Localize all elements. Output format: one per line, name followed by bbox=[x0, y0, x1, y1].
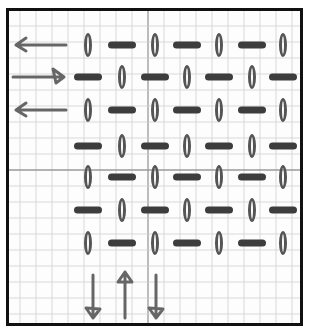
dash-mark bbox=[269, 143, 297, 150]
oval-mark bbox=[248, 198, 256, 222]
dash-mark bbox=[238, 42, 266, 49]
oval-mark bbox=[183, 65, 191, 89]
dash-mark bbox=[205, 207, 233, 214]
oval-mark bbox=[215, 231, 223, 255]
dash-mark bbox=[108, 107, 136, 114]
oval-mark bbox=[279, 98, 287, 122]
oval-mark bbox=[248, 134, 256, 158]
dash-mark bbox=[141, 143, 169, 150]
oval-mark bbox=[118, 134, 126, 158]
dash-mark bbox=[108, 174, 136, 181]
dash-mark bbox=[74, 74, 102, 81]
dash-mark bbox=[173, 174, 201, 181]
oval-mark bbox=[84, 98, 92, 122]
oval-mark bbox=[118, 198, 126, 222]
dash-mark bbox=[141, 207, 169, 214]
oval-mark bbox=[215, 165, 223, 189]
dash-mark bbox=[205, 74, 233, 81]
dash-mark bbox=[238, 107, 266, 114]
oval-mark bbox=[84, 231, 92, 255]
dash-mark bbox=[74, 207, 102, 214]
dash-mark bbox=[205, 143, 233, 150]
oval-mark bbox=[118, 65, 126, 89]
oval-mark bbox=[279, 165, 287, 189]
dash-mark bbox=[173, 42, 201, 49]
oval-mark bbox=[151, 33, 159, 57]
oval-mark bbox=[183, 134, 191, 158]
oval-mark bbox=[183, 198, 191, 222]
oval-mark bbox=[151, 98, 159, 122]
oval-mark bbox=[279, 33, 287, 57]
dash-mark bbox=[108, 42, 136, 49]
oval-mark bbox=[151, 165, 159, 189]
dash-mark bbox=[108, 240, 136, 247]
dash-mark bbox=[173, 107, 201, 114]
oval-mark bbox=[279, 231, 287, 255]
dash-mark bbox=[141, 74, 169, 81]
oval-mark bbox=[151, 231, 159, 255]
oval-mark bbox=[84, 33, 92, 57]
oval-mark bbox=[248, 65, 256, 89]
dash-mark bbox=[238, 240, 266, 247]
oval-mark bbox=[84, 165, 92, 189]
dash-mark bbox=[74, 143, 102, 150]
dash-mark bbox=[238, 174, 266, 181]
dash-mark bbox=[269, 207, 297, 214]
oval-mark bbox=[215, 98, 223, 122]
diagram-canvas: Hand-drawn grid pattern of alternating v… bbox=[0, 0, 310, 331]
dash-mark bbox=[173, 240, 201, 247]
oval-mark bbox=[215, 33, 223, 57]
dash-mark bbox=[269, 74, 297, 81]
